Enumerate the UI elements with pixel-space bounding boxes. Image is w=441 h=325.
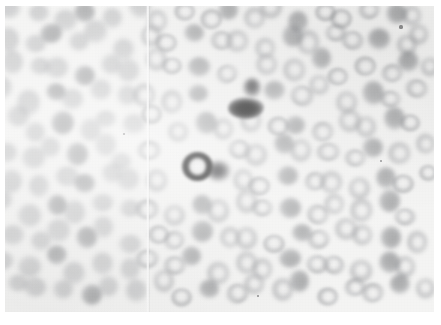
erythrocyte <box>44 192 70 219</box>
erythrocyte <box>52 163 81 189</box>
erythrocyte <box>379 90 400 108</box>
erythrocyte <box>380 61 405 84</box>
erythrocyte <box>136 100 166 128</box>
erythrocyte <box>232 186 260 216</box>
erythrocyte <box>128 79 159 112</box>
erythrocyte <box>99 6 125 31</box>
erythrocyte <box>68 31 89 51</box>
upper-dark-cell-tail <box>243 78 261 98</box>
erythrocyte <box>219 226 240 248</box>
erythrocyte <box>27 6 52 24</box>
erythrocyte <box>310 119 335 143</box>
erythrocyte <box>143 221 172 248</box>
erythrocyte <box>403 226 431 257</box>
erythrocyte <box>117 197 142 220</box>
erythrocyte <box>394 207 416 226</box>
erythrocyte <box>69 61 99 89</box>
erythrocyte <box>152 267 177 294</box>
erythrocyte <box>285 266 312 296</box>
erythrocyte <box>270 276 295 302</box>
erythrocyte <box>5 187 14 211</box>
erythrocyte <box>277 196 303 220</box>
erythrocyte <box>302 168 329 194</box>
erythrocyte <box>79 117 101 140</box>
erythrocyte <box>7 274 29 293</box>
erythrocyte <box>37 20 65 46</box>
erythrocyte <box>73 223 99 250</box>
erythrocyte <box>375 247 404 276</box>
erythrocyte <box>419 55 434 78</box>
erythrocyte <box>187 83 210 103</box>
erythrocyte <box>188 191 216 219</box>
erythrocyte <box>350 52 380 79</box>
erythrocyte <box>5 167 24 196</box>
erythrocyte <box>321 252 348 278</box>
erythrocyte <box>278 20 307 50</box>
erythrocyte <box>40 52 72 81</box>
erythrocyte <box>244 173 274 200</box>
erythrocyte <box>203 258 233 288</box>
erythrocyte <box>397 51 418 72</box>
erythrocyte <box>412 275 434 301</box>
erythrocyte <box>145 8 169 34</box>
erythrocyte <box>320 190 348 219</box>
erythrocyte <box>183 53 214 81</box>
erythrocyte <box>27 227 55 254</box>
erythrocyte <box>161 202 187 227</box>
erythrocyte <box>46 245 67 265</box>
erythrocyte <box>76 280 105 309</box>
erythrocyte <box>109 34 138 64</box>
erythrocyte <box>96 273 121 298</box>
erythrocyte <box>183 23 206 43</box>
erythrocyte <box>21 118 49 146</box>
erythrocyte <box>114 165 142 193</box>
erythrocyte <box>5 222 27 249</box>
erythrocyte <box>406 21 430 46</box>
erythrocyte <box>166 284 195 310</box>
erythrocyte <box>231 247 261 278</box>
erythrocyte <box>262 112 293 140</box>
erythrocyte <box>377 187 402 214</box>
erythrocyte <box>215 6 242 23</box>
erythrocyte <box>98 51 124 77</box>
erythrocyte <box>344 148 366 168</box>
erythrocyte <box>227 137 252 161</box>
erythrocyte <box>399 6 423 28</box>
erythrocyte <box>38 135 63 160</box>
erythrocyte <box>333 217 358 242</box>
erythrocyte <box>5 101 33 130</box>
erythrocyte <box>389 273 411 295</box>
erythrocyte <box>108 150 134 173</box>
erythrocyte <box>412 130 434 157</box>
erythrocyte <box>254 52 279 76</box>
erythrocyte <box>49 6 81 35</box>
erythrocyte <box>60 88 83 110</box>
erythrocyte <box>119 110 149 137</box>
erythrocyte <box>305 253 329 275</box>
erythrocyte <box>285 8 311 37</box>
erythrocyte <box>393 254 417 279</box>
erythrocyte <box>347 176 371 201</box>
erythrocyte <box>281 112 308 137</box>
erythrocyte <box>87 189 116 214</box>
erythrocyte <box>43 81 69 104</box>
erythrocyte <box>5 140 19 164</box>
erythrocyte <box>288 220 316 245</box>
erythrocyte <box>160 227 188 254</box>
erythrocyte <box>286 135 314 165</box>
erythrocyte <box>332 87 361 117</box>
erythrocyte <box>12 84 44 120</box>
erythrocyte <box>312 283 342 309</box>
erythrocyte <box>231 167 255 193</box>
erythrocyte <box>403 76 430 100</box>
erythrocyte <box>310 6 340 25</box>
erythrocyte <box>203 195 234 228</box>
erythrocyte <box>213 61 240 87</box>
micrograph-plate <box>5 6 434 312</box>
erythrocyte <box>188 217 216 245</box>
erythrocyte <box>379 102 409 134</box>
erythrocyte <box>325 24 346 43</box>
erythrocyte <box>5 247 16 273</box>
erythrocyte <box>22 146 45 168</box>
erythrocyte <box>303 200 331 228</box>
